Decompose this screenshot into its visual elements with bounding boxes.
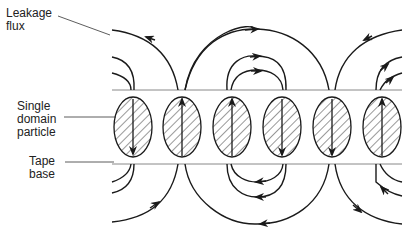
particle-2 — [163, 97, 201, 157]
particle-5 — [313, 97, 351, 157]
particle-3 — [213, 97, 251, 157]
magnetic-domain-diagram — [0, 0, 413, 240]
particle-4 — [263, 97, 301, 157]
particle-1 — [114, 97, 152, 157]
leakage-flux-leader — [58, 16, 110, 35]
particle-6 — [363, 97, 401, 157]
flux-lines-bottom — [112, 164, 402, 224]
particles — [114, 97, 401, 157]
flux-lines-top — [112, 27, 402, 90]
